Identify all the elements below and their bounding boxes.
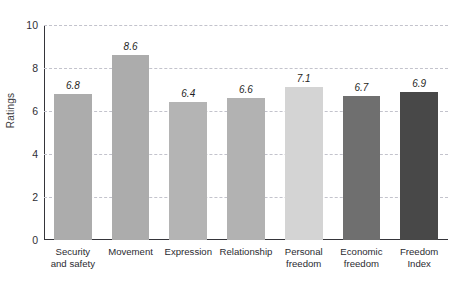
bar-value-label: 6.4 xyxy=(169,88,207,99)
bars-layer: 6.88.66.46.67.16.76.9 xyxy=(44,25,448,240)
bar-slot[interactable]: 6.4 xyxy=(169,25,207,240)
bar-value-label: 8.6 xyxy=(112,41,150,52)
x-category-label: Relationship xyxy=(217,246,275,258)
y-axis-title: Ratings xyxy=(5,71,16,151)
chart-title xyxy=(0,0,454,5)
bar-value-label: 6.9 xyxy=(400,78,438,89)
bar-chart: Ratings 0246810 6.88.66.46.67.16.76.9 Se… xyxy=(0,0,454,290)
bar[interactable] xyxy=(343,96,381,240)
y-tick-label: 0 xyxy=(32,234,38,246)
y-tick-label: 8 xyxy=(32,62,38,74)
x-category-label: Personal freedom xyxy=(275,246,333,269)
bar-value-label: 7.1 xyxy=(285,73,323,84)
x-category-label: Freedom Index xyxy=(390,246,448,269)
bar[interactable] xyxy=(112,55,150,240)
x-category-label: Security and safety xyxy=(44,246,102,269)
bar[interactable] xyxy=(54,94,92,240)
bar-value-label: 6.7 xyxy=(343,82,381,93)
bar-slot[interactable]: 7.1 xyxy=(285,25,323,240)
plot-area: 0246810 6.88.66.46.67.16.76.9 xyxy=(44,25,448,240)
bar[interactable] xyxy=(227,98,265,240)
bar-slot[interactable]: 8.6 xyxy=(112,25,150,240)
bar-value-label: 6.8 xyxy=(54,80,92,91)
bar-slot[interactable]: 6.8 xyxy=(54,25,92,240)
bar-slot[interactable]: 6.9 xyxy=(400,25,438,240)
y-tick-label: 4 xyxy=(32,148,38,160)
category-labels: Security and safetyMovementExpressionRel… xyxy=(44,246,448,290)
y-tick-label: 10 xyxy=(26,19,38,31)
x-category-label: Economic freedom xyxy=(333,246,391,269)
bar[interactable] xyxy=(285,87,323,240)
y-tick-label: 2 xyxy=(32,191,38,203)
x-category-label: Expression xyxy=(159,246,217,258)
y-tick-label: 6 xyxy=(32,105,38,117)
bar-slot[interactable]: 6.6 xyxy=(227,25,265,240)
x-category-label: Movement xyxy=(102,246,160,258)
bar[interactable] xyxy=(169,102,207,240)
bar[interactable] xyxy=(400,92,438,240)
bar-value-label: 6.6 xyxy=(227,84,265,95)
bar-slot[interactable]: 6.7 xyxy=(343,25,381,240)
